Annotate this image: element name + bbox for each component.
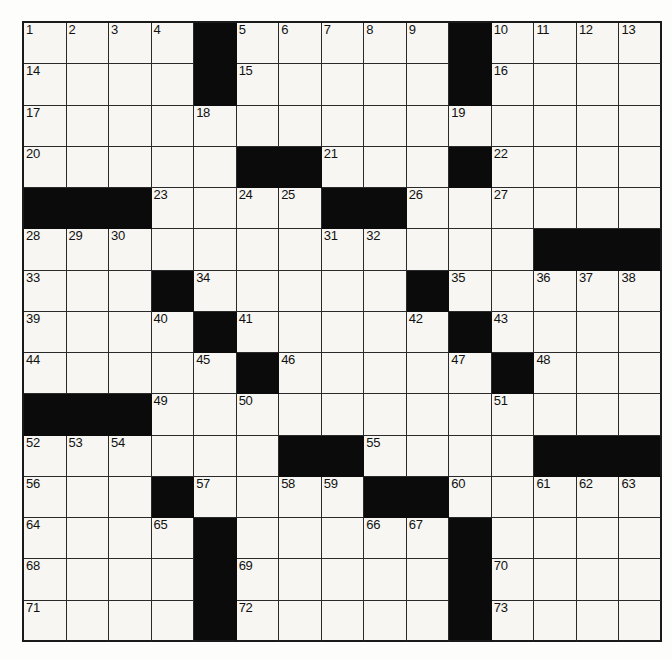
grid-letter-cell[interactable] <box>67 353 110 394</box>
grid-letter-cell[interactable] <box>109 312 152 353</box>
grid-letter-cell[interactable]: 59 <box>322 477 365 518</box>
grid-letter-cell[interactable] <box>152 106 195 147</box>
grid-letter-cell[interactable]: 12 <box>577 23 620 64</box>
grid-letter-cell[interactable] <box>577 518 620 559</box>
grid-letter-cell[interactable] <box>619 106 662 147</box>
grid-letter-cell[interactable] <box>364 312 407 353</box>
grid-letter-cell[interactable] <box>534 312 577 353</box>
grid-letter-cell[interactable] <box>364 353 407 394</box>
grid-letter-cell[interactable]: 34 <box>194 271 237 312</box>
grid-letter-cell[interactable] <box>67 64 110 105</box>
grid-letter-cell[interactable] <box>237 436 280 477</box>
grid-letter-cell[interactable] <box>619 353 662 394</box>
grid-letter-cell[interactable] <box>449 394 492 435</box>
grid-letter-cell[interactable] <box>492 106 535 147</box>
grid-letter-cell[interactable] <box>619 518 662 559</box>
grid-letter-cell[interactable] <box>109 353 152 394</box>
grid-letter-cell[interactable] <box>619 312 662 353</box>
grid-letter-cell[interactable] <box>577 188 620 229</box>
grid-letter-cell[interactable] <box>152 147 195 188</box>
grid-letter-cell[interactable]: 10 <box>492 23 535 64</box>
grid-letter-cell[interactable] <box>279 559 322 600</box>
grid-letter-cell[interactable] <box>577 147 620 188</box>
grid-letter-cell[interactable] <box>492 518 535 559</box>
grid-letter-cell[interactable] <box>279 518 322 559</box>
grid-letter-cell[interactable]: 36 <box>534 271 577 312</box>
grid-letter-cell[interactable]: 11 <box>534 23 577 64</box>
grid-letter-cell[interactable]: 35 <box>449 271 492 312</box>
grid-letter-cell[interactable]: 66 <box>364 518 407 559</box>
grid-letter-cell[interactable] <box>407 394 450 435</box>
grid-letter-cell[interactable]: 70 <box>492 559 535 600</box>
grid-letter-cell[interactable]: 26 <box>407 188 450 229</box>
grid-letter-cell[interactable] <box>577 64 620 105</box>
grid-letter-cell[interactable]: 52 <box>24 436 67 477</box>
grid-letter-cell[interactable]: 18 <box>194 106 237 147</box>
grid-letter-cell[interactable] <box>577 601 620 642</box>
grid-letter-cell[interactable] <box>109 147 152 188</box>
grid-letter-cell[interactable] <box>152 601 195 642</box>
grid-letter-cell[interactable] <box>194 229 237 270</box>
grid-letter-cell[interactable]: 46 <box>279 353 322 394</box>
grid-letter-cell[interactable] <box>534 147 577 188</box>
grid-letter-cell[interactable]: 22 <box>492 147 535 188</box>
grid-letter-cell[interactable] <box>109 518 152 559</box>
grid-letter-cell[interactable]: 55 <box>364 436 407 477</box>
grid-letter-cell[interactable] <box>67 312 110 353</box>
grid-letter-cell[interactable] <box>322 518 365 559</box>
grid-letter-cell[interactable]: 49 <box>152 394 195 435</box>
grid-letter-cell[interactable] <box>619 559 662 600</box>
grid-letter-cell[interactable]: 7 <box>322 23 365 64</box>
grid-letter-cell[interactable]: 37 <box>577 271 620 312</box>
grid-letter-cell[interactable] <box>407 229 450 270</box>
grid-letter-cell[interactable]: 25 <box>279 188 322 229</box>
grid-letter-cell[interactable]: 48 <box>534 353 577 394</box>
grid-letter-cell[interactable]: 13 <box>619 23 662 64</box>
grid-letter-cell[interactable]: 42 <box>407 312 450 353</box>
grid-letter-cell[interactable]: 9 <box>407 23 450 64</box>
grid-letter-cell[interactable] <box>279 271 322 312</box>
grid-letter-cell[interactable]: 30 <box>109 229 152 270</box>
grid-letter-cell[interactable]: 14 <box>24 64 67 105</box>
grid-letter-cell[interactable]: 69 <box>237 559 280 600</box>
grid-letter-cell[interactable]: 27 <box>492 188 535 229</box>
grid-letter-cell[interactable] <box>534 601 577 642</box>
grid-letter-cell[interactable]: 41 <box>237 312 280 353</box>
grid-letter-cell[interactable] <box>109 601 152 642</box>
grid-letter-cell[interactable]: 3 <box>109 23 152 64</box>
grid-letter-cell[interactable] <box>577 394 620 435</box>
grid-letter-cell[interactable]: 64 <box>24 518 67 559</box>
grid-letter-cell[interactable] <box>67 147 110 188</box>
grid-letter-cell[interactable] <box>194 188 237 229</box>
grid-letter-cell[interactable] <box>322 271 365 312</box>
grid-letter-cell[interactable] <box>449 229 492 270</box>
grid-letter-cell[interactable]: 23 <box>152 188 195 229</box>
grid-letter-cell[interactable] <box>279 312 322 353</box>
grid-letter-cell[interactable] <box>577 353 620 394</box>
grid-letter-cell[interactable]: 32 <box>364 229 407 270</box>
grid-letter-cell[interactable]: 16 <box>492 64 535 105</box>
grid-letter-cell[interactable] <box>364 147 407 188</box>
grid-letter-cell[interactable]: 72 <box>237 601 280 642</box>
grid-letter-cell[interactable] <box>407 147 450 188</box>
grid-letter-cell[interactable]: 62 <box>577 477 620 518</box>
grid-letter-cell[interactable] <box>194 147 237 188</box>
grid-letter-cell[interactable]: 2 <box>67 23 110 64</box>
grid-letter-cell[interactable] <box>194 394 237 435</box>
grid-letter-cell[interactable]: 29 <box>67 229 110 270</box>
grid-letter-cell[interactable]: 58 <box>279 477 322 518</box>
grid-letter-cell[interactable] <box>237 477 280 518</box>
grid-letter-cell[interactable] <box>534 518 577 559</box>
grid-letter-cell[interactable] <box>492 271 535 312</box>
grid-letter-cell[interactable]: 51 <box>492 394 535 435</box>
grid-letter-cell[interactable] <box>492 229 535 270</box>
grid-letter-cell[interactable]: 5 <box>237 23 280 64</box>
grid-letter-cell[interactable]: 31 <box>322 229 365 270</box>
grid-letter-cell[interactable]: 47 <box>449 353 492 394</box>
grid-letter-cell[interactable]: 8 <box>364 23 407 64</box>
grid-letter-cell[interactable] <box>534 188 577 229</box>
grid-letter-cell[interactable]: 56 <box>24 477 67 518</box>
grid-letter-cell[interactable]: 33 <box>24 271 67 312</box>
grid-letter-cell[interactable] <box>322 394 365 435</box>
grid-letter-cell[interactable] <box>67 271 110 312</box>
